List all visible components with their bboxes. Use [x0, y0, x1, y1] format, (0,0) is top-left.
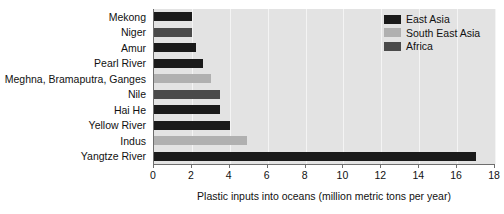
bar — [154, 59, 203, 68]
legend-item[interactable]: Africa — [384, 41, 480, 52]
bar-row — [154, 71, 495, 87]
x-axis-tick-label: 12 — [374, 170, 386, 181]
y-axis-tick-label: Hai He — [0, 102, 150, 118]
legend-item[interactable]: East Asia — [384, 14, 480, 25]
legend-label: East Asia — [406, 14, 450, 25]
chart-legend: East AsiaSouth East AsiaAfrica — [384, 14, 480, 52]
x-axis-tick — [342, 164, 343, 168]
x-axis-tick-label: 18 — [488, 170, 500, 181]
x-axis-tick — [305, 164, 306, 168]
bar-row — [154, 118, 495, 134]
legend-item[interactable]: South East Asia — [384, 28, 480, 39]
y-axis-tick-label: Yangtze River — [0, 149, 150, 165]
legend-swatch-icon — [384, 28, 401, 37]
x-axis-tick-label: 14 — [412, 170, 424, 181]
x-axis-title: Plastic inputs into oceans (million metr… — [153, 191, 495, 202]
y-axis-tick-label: Nile — [0, 87, 150, 103]
bar-row — [154, 149, 495, 165]
y-axis-tick-label: Meghna, Bramaputra, Ganges — [0, 71, 150, 87]
x-axis-line — [153, 164, 495, 165]
bar — [154, 105, 220, 114]
y-axis-tick-label: Mekong — [0, 9, 150, 25]
y-axis-tick-label: Niger — [0, 25, 150, 41]
bar-row — [154, 102, 495, 118]
bar-row — [154, 56, 495, 72]
bar — [154, 152, 476, 161]
x-axis-tick-label: 4 — [226, 170, 232, 181]
bar — [154, 136, 247, 145]
y-axis-category-labels: MekongNigerAmurPearl RiverMeghna, Bramap… — [0, 9, 150, 164]
legend-swatch-icon — [384, 42, 401, 51]
bar — [154, 74, 211, 83]
legend-label: Africa — [406, 41, 433, 52]
x-axis-tick-label: 10 — [337, 170, 349, 181]
bar — [154, 43, 196, 52]
x-axis-tick — [418, 164, 419, 168]
y-axis-tick-label: Amur — [0, 40, 150, 56]
x-axis-tick-label: 0 — [150, 170, 156, 181]
bar — [154, 28, 192, 37]
x-axis-tick — [380, 164, 381, 168]
bar-chart-figure: MekongNigerAmurPearl RiverMeghna, Bramap… — [0, 0, 504, 214]
legend-swatch-icon — [384, 15, 401, 24]
x-axis-tick — [153, 164, 154, 168]
x-axis-tick-label: 8 — [302, 170, 308, 181]
x-axis-tick-label: 6 — [264, 170, 270, 181]
bar-row — [154, 133, 495, 149]
x-axis-tick — [456, 164, 457, 168]
bar — [154, 121, 230, 130]
bar — [154, 12, 192, 21]
x-axis-tick-label: 2 — [188, 170, 194, 181]
x-axis-tick — [494, 164, 495, 168]
y-axis-tick-label: Indus — [0, 133, 150, 149]
x-axis-tick — [229, 164, 230, 168]
bar-row — [154, 87, 495, 103]
y-axis-tick-label: Yellow River — [0, 118, 150, 134]
x-axis-tick — [191, 164, 192, 168]
x-axis-tick — [267, 164, 268, 168]
x-axis-tick-label: 16 — [450, 170, 462, 181]
gridline — [495, 9, 496, 164]
y-axis-tick-label: Pearl River — [0, 56, 150, 72]
bar — [154, 90, 220, 99]
legend-label: South East Asia — [406, 28, 480, 39]
